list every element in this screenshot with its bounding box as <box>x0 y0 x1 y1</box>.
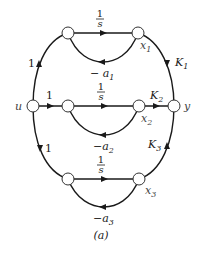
edge-feedback-3 <box>68 179 139 207</box>
label-feedback-2: −a2 <box>93 140 114 155</box>
label-K3: K3 <box>147 138 161 153</box>
arrow-x1-y-icon <box>164 60 170 67</box>
node-x2 <box>133 100 145 112</box>
signal-flow-graph: u y x1 x2 x3 1 s 1 s 1 s − a1 −a2 −a3 1 … <box>0 0 199 255</box>
label-integrator-3: 1 s <box>97 154 105 175</box>
label-x3: x3 <box>145 184 156 199</box>
arrow-u-n3-icon <box>37 145 43 152</box>
node-y <box>168 100 180 112</box>
node-x1 <box>132 27 144 39</box>
node-n2 <box>62 100 74 112</box>
label-integrator-1: 1 s <box>96 8 104 29</box>
svg-text:s: s <box>98 91 103 102</box>
arrow-u-n2-icon <box>47 103 54 109</box>
node-n1 <box>62 27 74 39</box>
svg-text:s: s <box>98 164 103 175</box>
label-x1: x1 <box>140 39 151 54</box>
label-gain-u-n1: 1 <box>28 57 35 70</box>
node-x3 <box>133 173 145 185</box>
label-x2: x2 <box>141 112 152 127</box>
edge-feedback-1 <box>68 33 138 62</box>
label-gain-u-n2: 1 <box>46 89 53 102</box>
arrow-feedback-1-icon <box>98 59 105 65</box>
label-u: u <box>15 100 22 113</box>
arrow-integrator-2-icon <box>101 103 108 109</box>
label-gain-u-n3: 1 <box>45 142 52 155</box>
node-u <box>27 100 39 112</box>
label-K2: K2 <box>149 89 163 104</box>
node-n3 <box>62 173 74 185</box>
label-K1: K1 <box>174 56 188 71</box>
figure-caption: (a) <box>93 229 108 242</box>
arrow-feedback-3-icon <box>99 204 106 210</box>
edge-feedback-2 <box>68 106 139 135</box>
svg-text:s: s <box>97 18 102 29</box>
arrow-integrator-1-icon <box>100 30 107 36</box>
arrow-feedback-2-icon <box>99 132 106 138</box>
label-integrator-2: 1 s <box>97 81 105 102</box>
label-y: y <box>183 100 191 113</box>
arrow-integrator-3-icon <box>101 176 108 182</box>
label-feedback-3: −a3 <box>93 212 114 227</box>
label-feedback-1: − a1 <box>90 67 114 82</box>
